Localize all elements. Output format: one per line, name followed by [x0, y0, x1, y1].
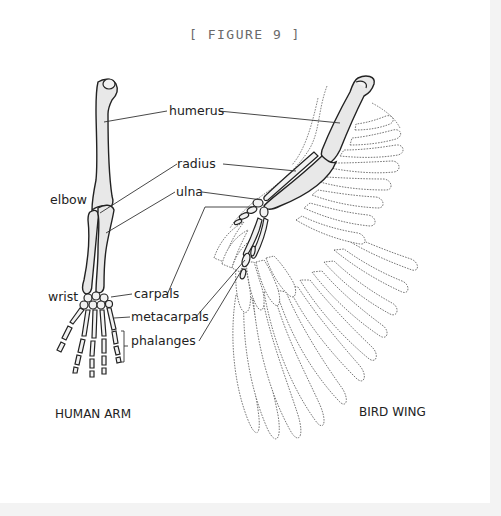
human-arm-illustration	[57, 79, 121, 377]
figure-card: [ FIGURE 9 ]	[0, 0, 490, 503]
captions: HUMAN ARM BIRD WING	[55, 405, 426, 421]
label-metacarpals: metacarpals	[131, 309, 209, 324]
human-phalanges	[57, 326, 121, 377]
label-humerus: humerus	[169, 103, 224, 118]
bird-metacarpals	[243, 218, 268, 258]
label-carpals: carpals	[134, 286, 179, 301]
label-ulna: ulna	[176, 184, 203, 199]
label-phalanges: phalanges	[131, 333, 196, 348]
human-humerus	[92, 79, 117, 210]
label-elbow: elbow	[50, 192, 87, 207]
label-radius: radius	[177, 156, 216, 171]
homology-diagram: humerus radius ulna elbow wrist carpals …	[0, 0, 490, 503]
caption-human-arm: HUMAN ARM	[55, 407, 131, 421]
human-carpals	[80, 292, 113, 309]
caption-bird-wing: BIRD WING	[359, 405, 426, 419]
bird-wing-illustration	[214, 76, 418, 439]
bone-labels: humerus radius ulna elbow wrist carpals …	[48, 103, 224, 348]
leader-lines	[100, 111, 340, 362]
human-metacarpals	[70, 308, 116, 338]
human-ulna	[96, 205, 114, 293]
label-wrist: wrist	[48, 289, 78, 304]
